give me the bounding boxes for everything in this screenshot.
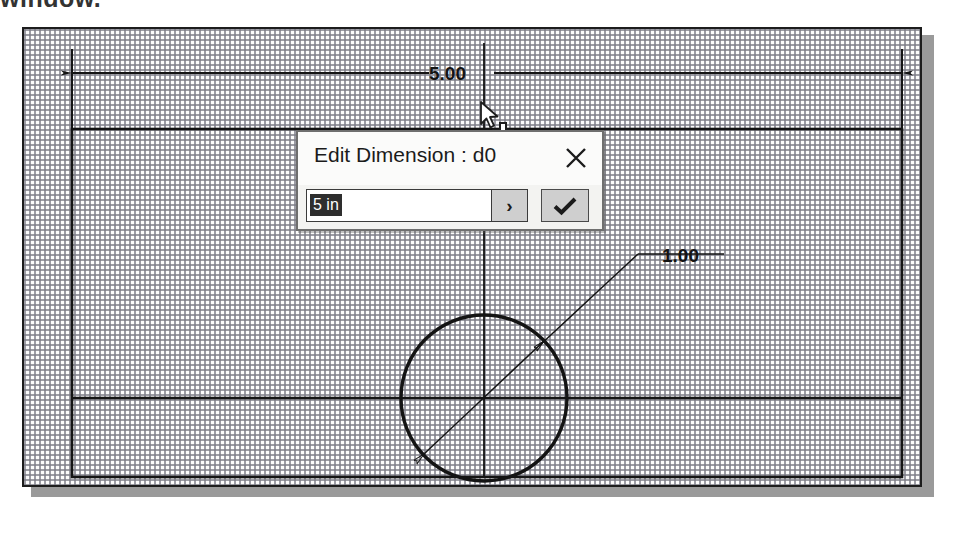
dimension-value-selected-text[interactable]: 5 in [310, 194, 342, 216]
sketch-geometry-layer: 5.00 1.00 [24, 29, 922, 487]
sketch-graphics-window[interactable]: 5.00 1.00 [22, 27, 922, 487]
diameter-leader-line [539, 254, 638, 346]
edit-dimension-dialog[interactable]: Edit Dimension : d0 5 in › [296, 130, 604, 231]
dialog-body: 5 in › [298, 185, 602, 233]
dimension-label-width[interactable]: 5.00 [429, 63, 466, 84]
accept-checkmark-button[interactable] [541, 189, 589, 222]
dialog-titlebar[interactable]: Edit Dimension : d0 [298, 132, 602, 185]
expand-options-button[interactable]: › [491, 189, 528, 222]
checkmark-icon [552, 196, 578, 216]
dimension-label-diameter[interactable]: 1.00 [662, 245, 699, 266]
close-icon[interactable] [564, 146, 588, 170]
top-caption-text: window. [0, 0, 101, 13]
dialog-title-text: Edit Dimension : d0 [314, 143, 496, 167]
